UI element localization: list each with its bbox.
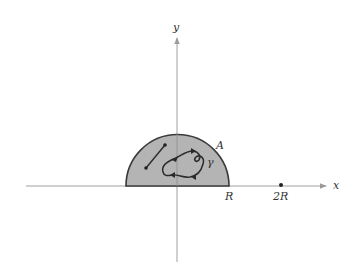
point-2r xyxy=(279,183,283,187)
segment-endpoint-lower xyxy=(144,166,148,170)
diagram-canvas: y x A γ R 2R xyxy=(0,0,358,269)
curve-label: γ xyxy=(207,156,214,169)
r-label: R xyxy=(224,190,233,203)
two-r-label: 2R xyxy=(272,190,288,203)
x-axis-label: x xyxy=(333,179,340,192)
segment-endpoint-upper xyxy=(163,143,167,147)
region-label: A xyxy=(215,139,224,152)
y-axis-label: y xyxy=(172,21,180,34)
